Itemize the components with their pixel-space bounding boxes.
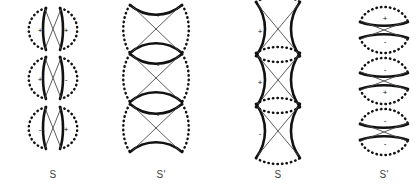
minus-sign-glyph: - <box>384 139 387 148</box>
plus-sign-glyph: + <box>383 88 388 97</box>
column-label: S <box>50 169 57 180</box>
smoothing-diagram-cell: +- <box>29 57 78 99</box>
smoothing-diagram-cell: -- <box>360 109 408 155</box>
plus-sign-glyph: + <box>258 27 263 36</box>
smoothing-diagram-cell: - <box>123 104 189 152</box>
plus-sign-glyph: + <box>383 14 388 23</box>
smoothing-diagram-cell: + <box>123 5 189 53</box>
minus-sign-glyph: - <box>384 37 387 46</box>
smoothing-diagram-cell: -+ <box>29 107 78 149</box>
diagram-column: +++--+ <box>29 8 78 149</box>
smoothing-diagram-figure: +++--++--++-+--+-- SS'SS' <box>0 0 420 195</box>
minus-sign-glyph: - <box>157 110 160 119</box>
minus-sign-glyph: - <box>157 60 160 69</box>
plus-sign-glyph: + <box>38 26 43 35</box>
diagram-column: ++- <box>256 0 300 164</box>
column-label: S' <box>379 169 388 180</box>
diagram-grid: +++--++--++-+--+-- <box>29 0 408 164</box>
plus-sign-glyph: + <box>64 26 69 35</box>
minus-sign-glyph: - <box>384 65 387 74</box>
diagram-column: +--+-- <box>360 7 408 155</box>
smoothing-diagram-cell: - <box>123 54 189 102</box>
plus-sign-glyph: + <box>258 78 263 87</box>
column-label: S' <box>156 169 165 180</box>
minus-sign-glyph: - <box>384 116 387 125</box>
plus-sign-glyph: + <box>156 11 161 20</box>
minus-sign-glyph: - <box>65 75 68 84</box>
figure-container: +++--++--++-+--+-- SS'SS' <box>0 0 420 195</box>
smoothing-diagram-cell: + <box>256 0 300 62</box>
minus-sign-glyph: - <box>39 125 42 134</box>
plus-sign-glyph: + <box>64 125 69 134</box>
plus-sign-glyph: + <box>38 75 43 84</box>
smoothing-diagram-cell: - <box>256 98 300 164</box>
diagram-column: +-- <box>123 5 189 152</box>
smoothing-diagram-cell: -+ <box>360 58 408 104</box>
minus-sign-glyph: - <box>259 129 262 138</box>
smoothing-diagram-cell: +- <box>360 7 408 53</box>
smoothing-diagram-cell: ++ <box>29 8 78 50</box>
column-label: S <box>275 169 282 180</box>
smoothing-diagram-cell: + <box>256 47 300 113</box>
column-labels: SS'SS' <box>50 169 389 180</box>
